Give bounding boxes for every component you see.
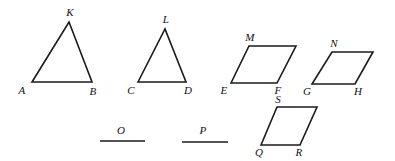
vertex-label-e: E <box>221 85 228 96</box>
triangle-akb-outline <box>32 22 92 82</box>
vertex-label-n: N <box>330 38 338 49</box>
parallelogram-emf-outline <box>231 46 296 83</box>
segment-label-p: P <box>200 125 207 136</box>
parallelogram-qsr-outline <box>261 107 317 145</box>
vertex-label-m: M <box>245 32 254 43</box>
vertex-label-b: B <box>90 86 97 97</box>
vertex-label-g: G <box>303 86 311 97</box>
triangle-cld-outline <box>138 29 186 82</box>
geometry-figure-canvas: A K B C L D E M F G N H Q S R O P <box>0 0 395 161</box>
vertex-label-h: H <box>354 86 362 97</box>
vertex-label-q: Q <box>255 147 263 158</box>
vertex-label-c: C <box>127 85 135 96</box>
parallelogram-gnh-outline <box>312 52 373 84</box>
segment-label-o: O <box>117 125 125 136</box>
vertex-label-a: A <box>19 85 26 96</box>
vertex-label-r: R <box>296 147 303 158</box>
vertex-label-k: K <box>66 7 74 18</box>
vertex-label-s: S <box>275 94 281 105</box>
geometry-figure-svg <box>0 0 395 161</box>
vertex-label-l: L <box>163 14 169 25</box>
vertex-label-d: D <box>184 85 192 96</box>
